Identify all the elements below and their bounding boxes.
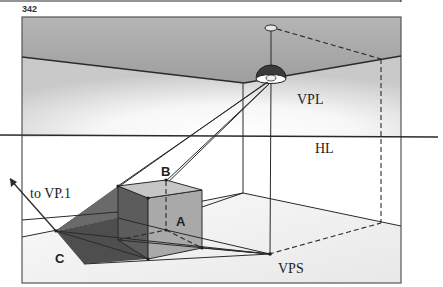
label-c: C — [55, 251, 65, 266]
vertex-dot — [200, 246, 203, 249]
vertex-dot — [146, 196, 149, 199]
vertex-dot — [164, 228, 167, 231]
label-vps: VPS — [278, 261, 304, 276]
cube-front-face — [148, 190, 202, 259]
lamp-bulb-icon — [266, 75, 276, 81]
vps-dot — [268, 252, 272, 256]
page-number: 342 — [22, 4, 37, 14]
perspective-shadow-diagram: 342 — [0, 0, 443, 287]
label-vpl: VPL — [297, 92, 323, 107]
vertex-dot — [54, 229, 57, 232]
label-hl: HL — [315, 141, 334, 156]
vertex-dot — [146, 257, 149, 260]
label-to-vp1: to VP.1 — [30, 186, 71, 201]
ceiling-mount-icon — [265, 25, 277, 31]
vertex-dot — [116, 184, 119, 187]
label-a: A — [176, 214, 186, 229]
label-b: B — [161, 164, 170, 179]
